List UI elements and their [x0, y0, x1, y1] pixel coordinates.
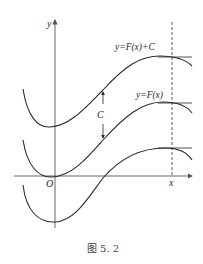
curve-upper: [23, 56, 192, 127]
middle-curve-label: y=F(x): [135, 90, 163, 101]
origin-label: O: [46, 178, 53, 189]
x-axis-label: x: [168, 177, 174, 188]
curve-middle: [23, 102, 192, 177]
upper-curve-label: y=F(x)+C: [114, 42, 155, 53]
antiderivative-family-diagram: y x O y=F(x)+C y=F(x) C 图 5. 2: [0, 0, 203, 264]
shift-label: C: [97, 109, 104, 120]
y-axis-label: y: [46, 18, 52, 29]
figure-caption: 图 5. 2: [87, 243, 119, 254]
